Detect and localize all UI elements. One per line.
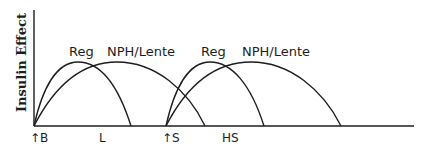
marker-s: S — [172, 131, 180, 145]
curve-nph-lente-supper — [166, 62, 341, 126]
label-reg-2: Reg — [201, 44, 226, 59]
insulin-effect-diagram: Insulin Effect Reg NPH/Lente Reg NPH/Len… — [0, 0, 425, 152]
arrow-up-icon: ↑ — [162, 131, 172, 145]
marker-hs: HS — [222, 131, 239, 145]
marker-b: B — [40, 131, 48, 145]
curve-nph-lente-breakfast — [34, 62, 205, 126]
label-reg-1: Reg — [69, 44, 94, 59]
curve-reg-breakfast — [34, 62, 131, 126]
label-nph-lente-1: NPH/Lente — [107, 44, 175, 59]
diagram-canvas: Insulin Effect Reg NPH/Lente Reg NPH/Len… — [0, 0, 425, 152]
label-nph-lente-2: NPH/Lente — [242, 44, 310, 59]
y-axis-label: Insulin Effect — [14, 13, 29, 112]
arrow-up-icon: ↑ — [30, 131, 40, 145]
marker-l: L — [99, 131, 106, 145]
curve-reg-supper — [166, 62, 264, 126]
